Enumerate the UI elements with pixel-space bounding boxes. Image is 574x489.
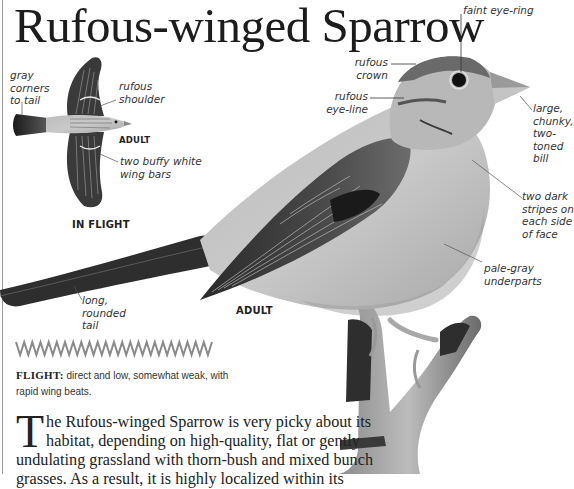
flight-description: FLIGHT: direct and low, somewhat weak, w… <box>16 368 231 399</box>
leader-wing-bars <box>100 154 118 162</box>
perched-bird-eye <box>452 73 466 87</box>
drop-cap: T <box>16 415 44 449</box>
annotation-gray-tail-corners: gray corners to tail <box>10 69 49 107</box>
in-flight-adult-label: ADULT <box>119 135 150 145</box>
annotation-long-rounded-tail: long, rounded tail <box>82 294 126 332</box>
flight-pattern-zigzag <box>16 342 212 355</box>
annotation-rufous-eye-line: rufous eye-line <box>322 90 368 115</box>
annotation-pale-gray-underparts: pale-gray underparts <box>484 262 542 287</box>
flying-bird-lower-wing <box>67 132 104 207</box>
flight-label: FLIGHT: <box>16 369 64 381</box>
in-flight-caption: IN FLIGHT <box>72 219 130 230</box>
flying-bird-body <box>46 115 128 133</box>
leader-shoulder <box>100 100 116 106</box>
annotation-faint-eye-ring: faint eye-ring <box>463 4 534 17</box>
annotation-bill: large, chunky, two- toned bill <box>533 102 574 165</box>
flying-bird-upper-wing <box>67 57 104 118</box>
annotation-rufous-crown: rufous crown <box>340 56 388 81</box>
body-paragraph-text: he Rufous-winged Sparrow is very picky a… <box>16 413 373 488</box>
annotation-face-stripes: two dark stripes on each side of face <box>522 190 574 240</box>
flying-bird-tail <box>13 114 48 136</box>
perched-adult-label: ADULT <box>236 305 273 316</box>
leader-bill <box>520 96 532 110</box>
annotation-rufous-shoulder: rufous shoulder <box>119 80 165 105</box>
annotation-wing-bars: two buffy white wing bars <box>120 155 202 180</box>
body-paragraph: The Rufous-winged Sparrow is very picky … <box>16 413 388 489</box>
